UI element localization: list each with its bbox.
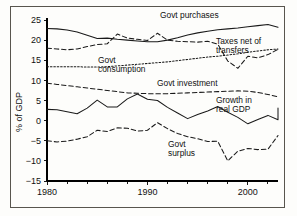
x-tick-label: 1990 — [137, 187, 157, 197]
x-tick-label: 2000 — [238, 187, 258, 197]
series-govt-surplus — [47, 123, 278, 161]
y-tick-label: 25 — [31, 15, 41, 25]
label-govt-investment: Govt investment — [157, 78, 218, 88]
chart-figure: 2520151050−5−10−15 198019902000 % of GDP… — [0, 0, 297, 216]
series-annotations: Govt purchases Taxes net of transfers Go… — [98, 10, 262, 158]
label-govt-consumption-line2: consumption — [98, 64, 146, 74]
line-chart: 2520151050−5−10−15 198019902000 % of GDP… — [0, 0, 297, 216]
y-tick-label: 10 — [31, 76, 41, 86]
y-axis-ticks: 2520151050−5−10−15 — [26, 15, 47, 186]
label-growth-in-real-gdp-line2: real GDP — [216, 104, 251, 114]
y-tick-label: −5 — [31, 136, 41, 146]
y-axis-title: % of GDP — [14, 92, 24, 132]
y-tick-label: 5 — [36, 96, 41, 106]
x-axis-ticks: 198019902000 — [37, 181, 268, 197]
y-tick-label: 15 — [31, 55, 41, 65]
label-taxes-net-of-transfers-line2: transfers — [216, 45, 249, 55]
label-govt-purchases: Govt purchases — [160, 10, 219, 20]
y-axis: 2520151050−5−10−15 — [26, 15, 47, 186]
y-tick-label: 0 — [36, 116, 41, 126]
label-govt-surplus-line2: surplus — [168, 148, 195, 158]
y-tick-label: −15 — [26, 176, 41, 186]
x-tick-label: 1980 — [37, 187, 57, 197]
y-tick-label: −10 — [26, 156, 41, 166]
x-axis: 198019902000 — [37, 181, 278, 197]
y-tick-label: 20 — [31, 35, 41, 45]
